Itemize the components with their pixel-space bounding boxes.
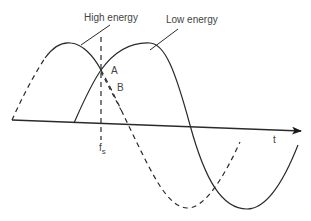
high-energy-curve-solid	[45, 43, 101, 70]
high-energy-curve-dashed-rise	[12, 58, 45, 120]
low-energy-curve	[74, 43, 298, 209]
point-a-label: A	[111, 65, 118, 76]
point-b-label: B	[117, 82, 124, 93]
fs-label-subscript: s	[102, 147, 106, 156]
low-energy-label: Low energy	[166, 14, 218, 25]
energy-waveform-diagram: High energy Low energy A B fs t	[0, 0, 311, 221]
time-axis-label: t	[273, 134, 276, 145]
low-energy-leader	[150, 29, 178, 50]
high-energy-leader	[81, 25, 110, 45]
high-energy-label: High energy	[84, 12, 138, 23]
fs-label: fs	[99, 142, 106, 156]
time-axis	[12, 120, 301, 131]
